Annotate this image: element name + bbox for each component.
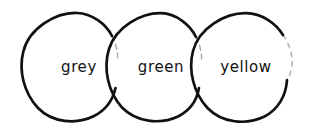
circle-green-label: green: [138, 58, 184, 76]
circle-yellow-faded-arc: [283, 35, 292, 80]
hand-drawn-circles-diagram: grey green yellow: [0, 0, 322, 134]
diagram-canvas: grey green yellow: [0, 0, 322, 134]
circle-yellow-label: yellow: [220, 58, 272, 76]
circle-grey-label: grey: [61, 58, 97, 76]
